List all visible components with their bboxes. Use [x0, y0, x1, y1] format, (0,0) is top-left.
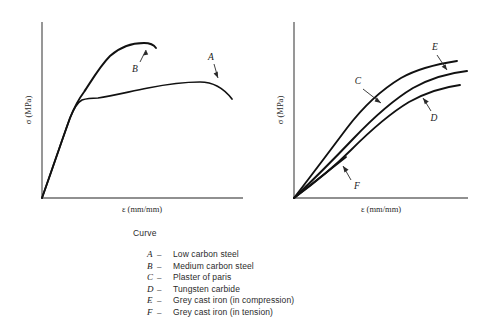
legend-dash-c: –: [157, 273, 173, 284]
curve-c-path: [294, 61, 457, 198]
curve-b-path: [42, 43, 156, 198]
legend-item-e: E – Grey cast iron (in compression): [147, 295, 381, 307]
curve-d-tag: D: [430, 113, 438, 123]
legend-label-c: Plaster of paris: [173, 272, 231, 283]
right-x-axis-label: ε (mm/mm): [361, 204, 401, 214]
curve-a-path: [42, 82, 232, 198]
legend-item-c: C – Plaster of paris: [147, 272, 381, 284]
legend-dash-b: –: [157, 262, 173, 273]
curve-f-arrowhead: [343, 166, 349, 172]
figure-stress-strain-curves: B A ε (mm/mm) σ (MPa) C D E: [0, 0, 502, 317]
legend-label-a: Low carbon steel: [173, 249, 239, 260]
legend-label-f: Grey cast iron (in tension): [173, 307, 273, 317]
legend-dash-f: –: [157, 308, 173, 317]
left-x-axis-label: ε (mm/mm): [122, 204, 162, 214]
legend-dash-a: –: [157, 250, 173, 261]
legend-item-b: B – Medium carbon steel: [147, 261, 381, 273]
curve-b-arrowhead: [143, 50, 148, 55]
right-y-axis-label: σ (MPa): [275, 96, 285, 125]
legend-dash-e: –: [157, 296, 173, 307]
curve-a-tag: A: [207, 52, 214, 62]
curve-f-tag: F: [353, 181, 360, 191]
left-y-axis-label: σ (MPa): [23, 96, 33, 125]
legend: Curve A – Low carbon steel B – Medium ca…: [131, 228, 381, 317]
curve-c-tag: C: [355, 76, 362, 86]
curve-e-arrowhead: [442, 64, 447, 70]
legend-key-a: A: [147, 249, 157, 260]
legend-rows: A – Low carbon steel B – Medium carbon s…: [147, 249, 381, 317]
curve-b-tag: B: [132, 64, 138, 74]
legend-key-c: C: [147, 272, 157, 283]
chart-right: C D E F ε (mm/mm) σ (MPa): [251, 0, 502, 225]
legend-key-d: D: [147, 284, 157, 295]
curve-d-arrowhead: [423, 98, 429, 104]
curve-a-arrowhead: [214, 72, 218, 78]
legend-dash-d: –: [157, 285, 173, 296]
legend-key-e: E: [147, 295, 157, 306]
legend-key-b: B: [147, 261, 157, 272]
legend-item-f: F – Grey cast iron (in tension): [147, 307, 381, 317]
legend-key-f: F: [147, 307, 157, 317]
chart-left: B A ε (mm/mm) σ (MPa): [0, 0, 251, 225]
legend-label-d: Tungsten carbide: [173, 284, 240, 295]
legend-label-e: Grey cast iron (in compression): [173, 295, 294, 306]
legend-item-d: D – Tungsten carbide: [147, 284, 381, 296]
curve-e-tag: E: [431, 42, 438, 52]
legend-label-b: Medium carbon steel: [173, 261, 254, 272]
legend-title: Curve: [133, 228, 381, 238]
legend-item-a: A – Low carbon steel: [147, 249, 381, 261]
